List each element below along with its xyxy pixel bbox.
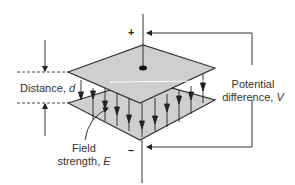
terminal-dot (139, 66, 147, 71)
potential-label-1: Potential (232, 78, 275, 90)
capacitor-diagram: + – Distance, d Potential difference, V … (0, 0, 295, 185)
minus-sign: – (128, 144, 134, 156)
field-label-1: Field (72, 142, 96, 154)
potential-label-2: difference, V (222, 91, 285, 103)
plus-sign: + (128, 26, 134, 38)
field-label-2: strength, E (57, 155, 111, 167)
distance-label: Distance, d (20, 82, 76, 94)
